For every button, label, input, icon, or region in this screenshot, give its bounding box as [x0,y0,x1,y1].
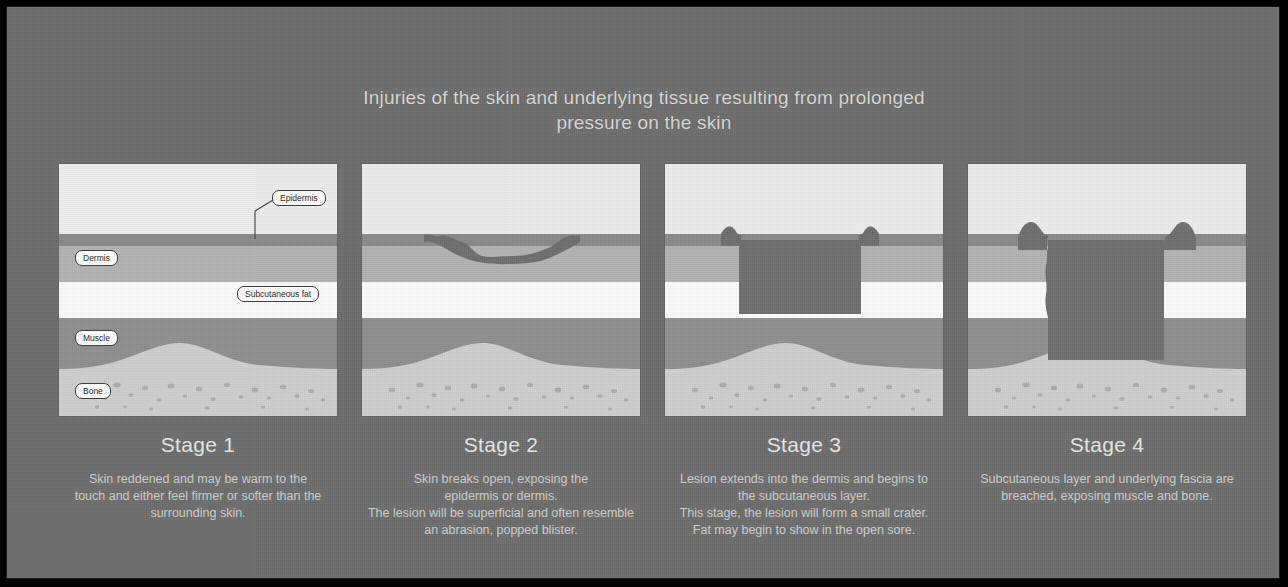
desc-line: epidermis or dermis. [354,488,648,505]
stage-3-description: Lesion extends into the dermis and begin… [653,471,955,539]
desc-line: Lesion extends into the dermis and begin… [657,471,951,488]
stage-1-figure: Epidermis Dermis Subcutaneous fat Muscle… [59,164,337,416]
stage-1-title: Stage 1 [47,433,349,457]
desc-line: Subcutaneous layer and underlying fascia… [960,471,1254,488]
desc-line: the subcutaneous layer. [657,488,951,505]
stage-1-description: Skin reddened and may be warm to the tou… [47,471,349,522]
stage-column-1: Epidermis Dermis Subcutaneous fat Muscle… [47,164,349,522]
desc-line: surrounding skin. [51,505,345,522]
label-dermis-text: Dermis [75,250,118,266]
label-epidermis-text: Epidermis [272,190,326,206]
stage-column-2: Stage 2 Skin breaks open, exposing the e… [350,164,652,539]
title-line-1: Injuries of the skin and underlying tiss… [7,85,1280,110]
title-line-2: pressure on the skin [7,110,1280,135]
poster-canvas: Injuries of the skin and underlying tiss… [6,6,1280,579]
label-epidermis: Epidermis [272,190,326,206]
stage-4-figure [968,164,1246,416]
stage-4-description: Subcutaneous layer and underlying fascia… [956,471,1258,505]
label-subcutaneous-fat-text: Subcutaneous fat [237,286,319,302]
desc-line: The lesion will be superficial and often… [354,505,648,522]
label-muscle: Muscle [75,330,118,346]
desc-line: breached, exposing muscle and bone. [960,488,1254,505]
page-title: Injuries of the skin and underlying tiss… [7,85,1280,135]
desc-line: an abrasion, popped blister. [354,522,648,539]
desc-line: Fat may begin to show in the open sore. [657,522,951,539]
stage-3-title: Stage 3 [653,433,955,457]
desc-line: Skin breaks open, exposing the [354,471,648,488]
label-muscle-text: Muscle [75,330,118,346]
label-subcutaneous-fat: Subcutaneous fat [237,286,319,302]
stage-column-4: Stage 4 Subcutaneous layer and underlyin… [956,164,1258,505]
stage-column-3: Stage 3 Lesion extends into the dermis a… [653,164,955,539]
stage-4-title: Stage 4 [956,433,1258,457]
stage-2-title: Stage 2 [350,433,652,457]
stage-3-figure [665,164,943,416]
label-bone: Bone [75,383,111,399]
desc-line: This stage, the lesion will form a small… [657,505,951,522]
label-dermis: Dermis [75,250,118,266]
desc-line: touch and either feel firmer or softer t… [51,488,345,505]
desc-line: Skin reddened and may be warm to the [51,471,345,488]
stage-panels: Epidermis Dermis Subcutaneous fat Muscle… [7,164,1280,574]
stage-2-figure [362,164,640,416]
label-bone-text: Bone [75,383,111,399]
stage-2-description: Skin breaks open, exposing the epidermis… [350,471,652,539]
